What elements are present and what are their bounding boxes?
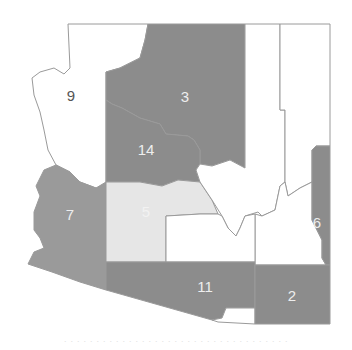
district-label-9: 9 xyxy=(67,87,75,104)
arizona-district-map: 9 3 14 7 5 11 2 6 xyxy=(0,0,352,350)
district-label-14: 14 xyxy=(138,141,155,158)
district-label-11: 11 xyxy=(197,278,213,295)
district-label-7: 7 xyxy=(66,206,74,223)
district-label-2: 2 xyxy=(288,287,296,304)
map-caption: · · · · · · · · · · · · · · · · · · · · … xyxy=(0,336,352,350)
district-label-3: 3 xyxy=(181,88,189,105)
district-label-6: 6 xyxy=(313,214,321,231)
district-label-5: 5 xyxy=(142,203,150,220)
